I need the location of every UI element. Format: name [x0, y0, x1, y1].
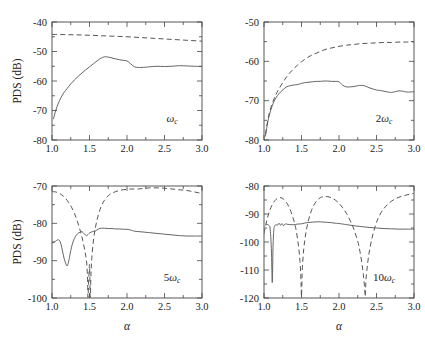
curve-dashed: [52, 34, 202, 41]
x-tick-label: 1.5: [295, 301, 308, 312]
y-tick-label: -80: [245, 135, 259, 146]
x-tick-label: 2.5: [158, 143, 171, 154]
x-tick-label: 1.5: [83, 301, 96, 312]
curve-solid: [54, 57, 203, 119]
x-tick-label: 2.0: [120, 301, 133, 312]
y-tick-label: -60: [245, 56, 259, 67]
x-tick-label: 2.0: [120, 143, 133, 154]
y-tick-label: -70: [245, 95, 259, 106]
y-tick-label: -70: [33, 105, 47, 116]
y-tick-label: -100: [28, 293, 47, 304]
x-tick-label: 1.0: [257, 301, 270, 312]
figure-canvas: 1.01.52.02.53.0-80-70-60-50-40PDS (dB)ωc…: [0, 0, 425, 340]
x-axis-title: α: [336, 320, 343, 332]
x-tick-label: 3.0: [195, 301, 208, 312]
x-tick-label: 2.0: [332, 301, 345, 312]
x-tick-label: 3.0: [407, 143, 420, 154]
y-tick-label: -110: [240, 265, 259, 276]
x-tick-label: 1.0: [45, 301, 58, 312]
y-axis-title: PDS (dB): [11, 58, 24, 103]
y-tick-label: -80: [245, 181, 259, 192]
y-tick-label: -90: [245, 209, 259, 220]
panel-5omega-c: 1.01.52.02.53.0-100-90-80-70αPDS (dB)5ωc: [8, 172, 214, 338]
panel-annotation: 2ωc: [376, 112, 393, 127]
y-tick-label: -80: [33, 135, 47, 146]
x-tick-label: 2.5: [370, 301, 383, 312]
y-axis-title: PDS (dB): [11, 219, 24, 264]
panel-annotation: 10ωc: [373, 271, 396, 286]
y-tick-label: -40: [33, 17, 47, 28]
y-tick-label: -90: [33, 255, 47, 266]
x-tick-label: 2.5: [158, 301, 171, 312]
panel-annotation: 5ωc: [164, 271, 181, 286]
panel-omega-c: 1.01.52.02.53.0-80-70-60-50-40PDS (dB)ωc: [8, 8, 214, 162]
y-tick-label: -70: [33, 181, 47, 192]
y-tick-label: -120: [240, 293, 259, 304]
panel-annotation: ωc: [166, 112, 178, 127]
y-tick-label: -60: [33, 76, 47, 87]
y-tick-label: -50: [245, 17, 259, 28]
x-tick-label: 3.0: [407, 301, 420, 312]
x-tick-label: 2.5: [370, 143, 383, 154]
y-tick-label: -100: [240, 237, 259, 248]
panel-2omega-c: 1.01.52.02.53.0-80-70-60-502ωc: [222, 8, 425, 162]
x-tick-label: 1.0: [45, 143, 58, 154]
curve-solid: [266, 81, 415, 136]
y-tick-label: -50: [33, 46, 47, 57]
curve-solid: [52, 228, 202, 266]
x-tick-label: 1.5: [83, 143, 96, 154]
panel-10omega-c: 1.01.52.02.53.0-120-110-100-90-80α10ωc: [222, 172, 425, 338]
x-tick-label: 3.0: [195, 143, 208, 154]
curve-solid: [266, 222, 414, 283]
x-tick-label: 2.0: [332, 143, 345, 154]
x-axis-title: α: [124, 320, 131, 332]
x-tick-label: 1.5: [295, 143, 308, 154]
y-tick-label: -80: [33, 218, 47, 229]
x-tick-label: 1.0: [257, 143, 270, 154]
